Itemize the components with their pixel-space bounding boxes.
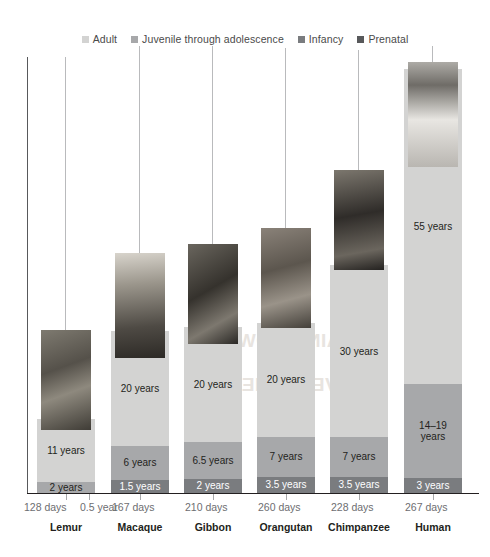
bar-segment-infancy: 2 years [184,479,242,493]
infancy-callout-tick [89,494,90,500]
photo-leader-line [432,46,433,62]
gestation-label: 210 days [185,501,228,513]
segment-value-label: 3.5 years [338,479,379,490]
bar-segment-adult: 20 years [257,323,315,437]
segment-value-label: 6 years [124,457,157,468]
segment-value-label: 3.5 years [265,479,306,490]
bar-segment-juvenile: 6 years [111,446,169,480]
segment-value-label: 2 years [197,480,230,491]
segment-value-label: 3 years [417,480,450,491]
gestation-tick [359,494,360,500]
gestation-tick [286,494,287,500]
segment-value-label: 20 years [194,379,232,390]
gestation-label: 128 days [24,501,67,513]
lemur-photo [41,330,91,430]
gestation-label: 167 days [112,501,155,513]
segment-value-label: 7 years [343,451,376,462]
chart-plot-area: BRAIN GROWTH AND DEVELOPMENT 11 years2 y… [0,0,490,557]
x-axis-line [27,493,479,494]
orangutan-photo [261,228,311,328]
photo-leader-line [285,48,286,228]
segment-value-label: 30 years [340,346,378,357]
bar-segment-juvenile: 7 years [257,437,315,477]
bar-segment-infancy: 1.5 years [111,480,169,493]
bar-segment-juvenile: 2 years [37,482,95,493]
y-axis-line [27,57,28,494]
bar-segment-juvenile: 7 years [330,437,388,477]
gibbon-photo [188,244,238,344]
bar-segment-adult: 30 years [330,265,388,437]
stacked-bar: 30 years7 years3.5 years [330,265,388,493]
segment-value-label: 6.5 years [192,455,233,466]
segment-value-label: 55 years [414,221,452,232]
bar-segment-juvenile: 14–19years [404,384,462,478]
segment-value-label: 7 years [270,451,303,462]
segment-value-label: 20 years [121,383,159,394]
segment-value-label: 11 years [47,445,85,456]
stacked-bar: 20 years7 years3.5 years [257,323,315,493]
photo-leader-line [212,46,213,244]
gestation-label: 260 days [258,501,301,513]
gestation-tick [213,494,214,500]
bar-segment-infancy: 3.5 years [330,477,388,493]
gestation-label: 267 days [405,501,448,513]
gestation-tick [433,494,434,500]
bar-segment-infancy: 3.5 years [257,477,315,493]
segment-value-label: 1.5 years [119,481,160,492]
bar-segment-juvenile: 6.5 years [184,442,242,479]
segment-value-label: 2 years [50,482,83,493]
human-photo [408,62,458,167]
stacked-bar: 20 years6.5 years2 years [184,327,242,493]
gestation-label: 228 days [331,501,374,513]
bar-segment-infancy: 3 years [404,478,462,493]
macaque-photo [115,253,165,358]
gestation-tick [66,494,67,500]
photo-leader-line [65,57,66,330]
segment-value-label: 14–19years [419,420,447,442]
chimpanzee-photo [334,170,384,270]
photo-leader-line [139,46,140,253]
photo-leader-line [358,50,359,170]
bar-segment-adult: 20 years [184,327,242,441]
segment-value-label: 20 years [267,374,305,385]
gestation-tick [140,494,141,500]
species-label-human: Human [388,521,478,533]
